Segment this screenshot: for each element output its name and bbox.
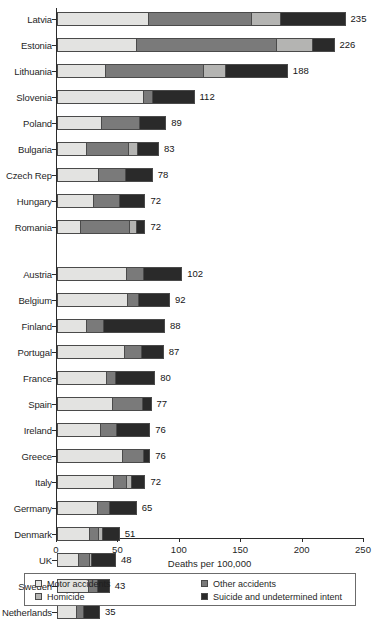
category-label: Hungary [0, 192, 52, 211]
bar-segment [89, 528, 99, 540]
y-axis-tick [52, 123, 57, 124]
y-axis-tick [52, 45, 57, 46]
category-label: Finland [0, 317, 52, 336]
bar-segment [102, 528, 119, 540]
bar-value-label: 112 [200, 90, 215, 104]
bar-segment [76, 606, 83, 618]
bar-segment [58, 117, 101, 129]
x-axis-tick-label: 50 [97, 544, 137, 555]
bar-value-label: 78 [158, 168, 169, 182]
bar-segment [58, 606, 76, 618]
bar-segment [100, 424, 116, 436]
stacked-bar [57, 194, 145, 208]
y-axis-tick [52, 352, 57, 353]
legend-item-motor-accidents: Motor accidents [35, 578, 111, 591]
bar-value-label: 87 [169, 345, 180, 359]
x-axis-tick [117, 538, 118, 542]
bar-segment [112, 398, 142, 410]
bar-segment [58, 268, 126, 280]
bar-value-label: 77 [157, 397, 168, 411]
category-label: Denmark [0, 525, 52, 544]
bar-segment [58, 398, 112, 410]
stacked-bar [57, 64, 288, 78]
bar-value-label: 72 [150, 220, 161, 234]
bar-value-label: 76 [155, 423, 166, 437]
bar-segment [97, 502, 109, 514]
bar-segment [58, 195, 93, 207]
bar-segment [109, 502, 135, 514]
stacked-bar [57, 605, 100, 619]
category-label: Austria [0, 265, 52, 284]
x-axis-title: Deaths per 100,000 [56, 558, 363, 569]
y-axis-tick [52, 612, 57, 613]
bar-value-label: 72 [150, 475, 161, 489]
x-axis-tick-label: 250 [343, 544, 376, 555]
stacked-bar [57, 397, 152, 411]
x-axis-tick-label: 200 [282, 544, 322, 555]
category-label: Italy [0, 473, 52, 492]
legend-label: Other accidents [213, 579, 276, 589]
stacked-bar [57, 168, 153, 182]
bar-segment [58, 221, 80, 233]
stacked-bar [57, 345, 164, 359]
category-label: Poland [0, 114, 52, 133]
x-axis-tick-label: 150 [220, 544, 260, 555]
bar-segment [58, 528, 89, 540]
stacked-bar [57, 142, 159, 156]
bar-segment [58, 294, 127, 306]
bar-segment [58, 65, 105, 77]
bar-segment [152, 91, 193, 103]
bar-segment [58, 13, 148, 25]
stacked-bar [57, 12, 346, 26]
bar-value-label: 89 [171, 116, 182, 130]
bar-segment [142, 398, 150, 410]
y-axis-tick [52, 508, 57, 509]
bar-segment [148, 13, 250, 25]
category-label: Lithuania [0, 62, 52, 81]
bar-segment [124, 346, 141, 358]
bar-value-label: 35 [105, 605, 116, 619]
x-axis-tick [363, 538, 364, 542]
bar-segment [138, 294, 169, 306]
bar-segment [103, 320, 164, 332]
bar-value-label: 65 [142, 501, 153, 515]
bar-segment [86, 320, 103, 332]
y-axis-tick [52, 378, 57, 379]
bar-segment [141, 346, 163, 358]
y-axis-tick [52, 19, 57, 20]
bar-segment [136, 39, 276, 51]
bar-segment [58, 39, 136, 51]
bar-segment [126, 268, 143, 280]
bar-segment [113, 476, 126, 488]
y-axis-tick [52, 300, 57, 301]
y-axis-tick [52, 326, 57, 327]
x-axis-tick [179, 538, 180, 542]
category-label: Romania [0, 218, 52, 237]
x-axis-tick-label: 100 [159, 544, 199, 555]
legend-label: Homicide [47, 592, 85, 602]
legend-item-other-accidents: Other accidents [201, 578, 276, 591]
category-label: Spain [0, 395, 52, 414]
x-axis-tick [240, 538, 241, 542]
bar-segment [83, 606, 99, 618]
bar-segment [122, 450, 144, 462]
bar-segment [58, 450, 122, 462]
category-label: Portugal [0, 343, 52, 362]
bar-segment [276, 39, 311, 51]
stacked-bar [57, 90, 195, 104]
bar-segment [80, 221, 129, 233]
bar-segment [203, 65, 225, 77]
y-axis-tick [52, 430, 57, 431]
x-axis-tick [56, 538, 57, 542]
bar-segment [98, 169, 126, 181]
legend-swatch-icon [201, 593, 208, 600]
bar-segment [280, 13, 345, 25]
stacked-bar [57, 116, 166, 130]
bar-segment [101, 117, 138, 129]
y-axis-tick [52, 274, 57, 275]
category-label: Slovenia [0, 88, 52, 107]
x-axis-tick [302, 538, 303, 542]
bar-segment [137, 143, 157, 155]
bar-value-label: 88 [170, 319, 181, 333]
bar-value-label: 102 [187, 267, 203, 281]
